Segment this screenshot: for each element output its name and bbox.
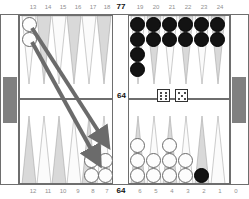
checker-white-5-2[interactable] [146, 168, 161, 183]
checker-black-23-1[interactable] [194, 17, 209, 32]
point-label-21: 21 [165, 1, 179, 13]
checker-white-6-1[interactable] [130, 138, 145, 153]
point-label-23: 23 [197, 1, 211, 13]
checker-white-6-3[interactable] [130, 168, 145, 183]
checker-black-24-1[interactable] [210, 17, 225, 32]
checker-white-7-2[interactable] [98, 168, 113, 183]
checker-white-5-1[interactable] [146, 153, 161, 168]
die-left[interactable] [157, 89, 170, 102]
checker-black-21-2[interactable] [162, 32, 177, 47]
point-label-3: 3 [181, 185, 195, 197]
checker-white-6-2[interactable] [130, 153, 145, 168]
point-label-6: 6 [133, 185, 147, 197]
point-label-20: 20 [149, 1, 163, 13]
bear-off-tray-left[interactable] [0, 14, 18, 185]
point-label-8: 8 [86, 185, 100, 197]
checker-white-4-2[interactable] [162, 153, 177, 168]
checker-black-20-1[interactable] [146, 17, 161, 32]
bear-off-label: 0 [229, 185, 243, 197]
point-label-14: 14 [41, 1, 55, 13]
point-label-15: 15 [56, 1, 70, 13]
point-label-7: 7 [100, 185, 114, 197]
point-label-24: 24 [213, 1, 227, 13]
checker-black-24-2[interactable] [210, 32, 225, 47]
checker-black-19-4[interactable] [130, 62, 145, 77]
checker-white-8-1[interactable] [84, 153, 99, 168]
point-label-10: 10 [56, 185, 70, 197]
pip-count-bottom: 64 [113, 91, 130, 100]
point-label-2: 2 [197, 185, 211, 197]
bottom-point-labels: 12 11 10 9 8 7 64 6 5 4 3 2 1 0 [0, 185, 249, 199]
checker-white-4-1[interactable] [162, 138, 177, 153]
bear-off-tray-right[interactable] [231, 14, 249, 185]
pip-count-bottom-label: 64 [113, 185, 129, 197]
point-label-16: 16 [71, 1, 85, 13]
checker-black-2-1[interactable] [194, 168, 209, 183]
point-label-11: 11 [41, 185, 55, 197]
backgammon-board: 13 14 15 16 17 18 77 19 20 21 22 23 24 [0, 0, 249, 199]
checker-white-13-2[interactable] [22, 32, 37, 47]
checker-black-22-2[interactable] [178, 32, 193, 47]
checker-black-20-2[interactable] [146, 32, 161, 47]
tray-marker-left [3, 77, 17, 123]
point-label-19: 19 [133, 1, 147, 13]
point-label-9: 9 [71, 185, 85, 197]
point-label-13: 13 [26, 1, 40, 13]
center-bar[interactable]: 64 [112, 15, 129, 184]
point-label-18: 18 [100, 1, 114, 13]
checker-black-19-1[interactable] [130, 17, 145, 32]
checker-white-13-1[interactable] [22, 17, 37, 32]
checker-white-7-1[interactable] [98, 153, 113, 168]
tray-marker-right [232, 77, 246, 123]
point-label-22: 22 [181, 1, 195, 13]
checker-white-3-2[interactable] [178, 168, 193, 183]
die-right[interactable] [175, 89, 188, 102]
checker-black-22-1[interactable] [178, 17, 193, 32]
point-label-17: 17 [86, 1, 100, 13]
checker-black-21-1[interactable] [162, 17, 177, 32]
checker-white-8-2[interactable] [84, 168, 99, 183]
point-label-4: 4 [165, 185, 179, 197]
point-label-12: 12 [26, 185, 40, 197]
checker-black-23-2[interactable] [194, 32, 209, 47]
point-label-1: 1 [213, 185, 227, 197]
point-label-5: 5 [149, 185, 163, 197]
top-point-labels: 13 14 15 16 17 18 77 19 20 21 22 23 24 [0, 1, 249, 15]
checker-white-4-3[interactable] [162, 168, 177, 183]
pip-count-top: 77 [113, 1, 129, 13]
checker-black-19-3[interactable] [130, 47, 145, 62]
checker-white-3-1[interactable] [178, 153, 193, 168]
checker-black-19-2[interactable] [130, 32, 145, 47]
